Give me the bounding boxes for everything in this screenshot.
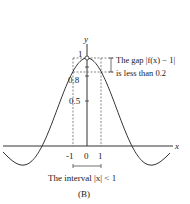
figure-caption: (B) — [78, 189, 90, 199]
x-tick-0: 0 — [84, 151, 89, 161]
y-tick-1: 1 — [78, 49, 83, 59]
gap-annotation-line1: The gap |f(x) − 1| — [116, 55, 175, 65]
interval-annotation: The interval |x| < 1 — [48, 173, 116, 183]
gap-bracket — [109, 58, 113, 72]
open-point — [85, 56, 89, 60]
x-tick-neg1: -1 — [66, 151, 74, 161]
sinc-chart: x y 1 0.8 0.5 -1 0 1 The gap |f(x) − 1| … — [0, 0, 190, 204]
y-axis-label: y — [83, 34, 88, 44]
gap-annotation-line2: is less than 0.2 — [116, 68, 166, 78]
x-axis-label: x — [174, 141, 179, 151]
x-tick-1: 1 — [98, 151, 103, 161]
interval-bracket — [73, 164, 101, 168]
y-tick-0.8: 0.8 — [68, 75, 80, 85]
y-tick-0.5: 0.5 — [69, 96, 81, 106]
